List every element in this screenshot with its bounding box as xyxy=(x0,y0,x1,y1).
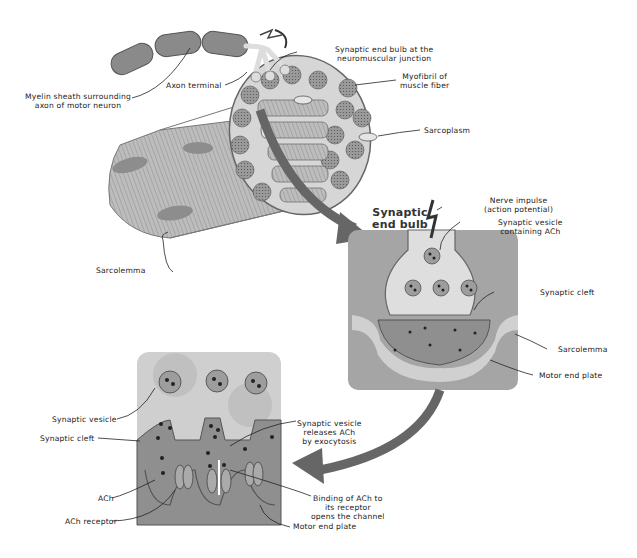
label-motor-end-plate-mid: Motor end plate xyxy=(539,371,602,380)
vesicles xyxy=(159,370,267,394)
label-line: axon of motor neuron xyxy=(25,101,131,110)
heading-synaptic-end-bulb: Synaptic end bulb xyxy=(372,207,428,231)
label-synaptic-cleft-bottom: Synaptic cleft xyxy=(40,434,95,443)
heading-line: end bulb xyxy=(372,219,428,231)
label-line: muscle fiber xyxy=(400,81,449,90)
label-end-bulb-nmj: Synaptic end bulb at the neuromuscular j… xyxy=(335,45,433,63)
label-myofibril: Myofibril of muscle fiber xyxy=(400,72,449,90)
label-exocytosis: Synaptic vesicle releases ACh by exocyto… xyxy=(297,419,362,446)
label-sarcolemma-mid: Sarcolemma xyxy=(558,345,607,354)
label-nerve-impulse: Nerve impulse (action potential) xyxy=(484,196,553,214)
label-vesicle-ach: Synaptic vesicle containing ACh xyxy=(498,218,563,236)
label-sarcoplasm: Sarcoplasm xyxy=(424,126,470,135)
label-line: Myelin sheath surrounding xyxy=(25,92,131,101)
label-line: Myofibril of xyxy=(400,72,449,81)
label-line: Synaptic vesicle xyxy=(297,419,362,428)
label-line: opens the channel xyxy=(311,512,385,521)
label-line: releases ACh xyxy=(297,428,362,437)
label-axon-terminal: Axon terminal xyxy=(166,81,222,90)
label-line: by exocytosis xyxy=(297,437,362,446)
muscle-fiber xyxy=(109,42,385,238)
label-binding: Binding of ACh to its receptor opens the… xyxy=(311,494,385,521)
label-synaptic-vesicle: Synaptic vesicle xyxy=(52,415,117,424)
label-sarcolemma-top: Sarcolemma xyxy=(96,266,145,275)
label-line: neuromuscular junction xyxy=(335,54,433,63)
label-myelin: Myelin sheath surrounding axon of motor … xyxy=(25,92,131,110)
label-line: Synaptic vesicle xyxy=(498,218,563,227)
label-ach-receptor: ACh receptor xyxy=(65,517,117,526)
neuromuscular-junction-illustration xyxy=(0,0,637,558)
label-line: (action potential) xyxy=(484,205,553,214)
label-ach: ACh xyxy=(98,494,114,503)
label-line: its receptor xyxy=(311,503,385,512)
synapse-detail-inset xyxy=(137,352,281,525)
label-motor-end-plate-bottom: Motor end plate xyxy=(293,522,356,531)
label-line: Binding of ACh to xyxy=(311,494,385,503)
label-line: Nerve impulse xyxy=(484,196,553,205)
label-line: containing ACh xyxy=(498,227,563,236)
label-line: Synaptic end bulb at the xyxy=(335,45,433,54)
label-synaptic-cleft-mid: Synaptic cleft xyxy=(540,288,595,297)
